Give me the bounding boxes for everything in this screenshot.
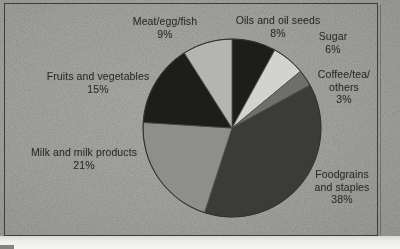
slice-value-fruits-and-vegetables: 15% <box>28 83 168 96</box>
slice-label-foodgrains-and-staples-line2: and staples <box>300 181 384 194</box>
chart-page: Meat/egg/fish 9% Oils and oil seeds 8% S… <box>0 0 400 249</box>
slice-label-meat-egg-fish: Meat/egg/fish 9% <box>104 15 226 40</box>
pie-slice-group <box>143 39 321 217</box>
slice-value-foodgrains-and-staples: 38% <box>300 193 384 206</box>
slice-label-sugar-text: Sugar <box>319 30 348 42</box>
slice-label-fruits-and-vegetables: Fruits and vegetables 15% <box>28 70 168 95</box>
slice-label-coffee-tea-others-line2: others <box>304 81 384 94</box>
slice-label-milk-and-milk-products-text: Milk and milk products <box>31 146 137 158</box>
slice-value-meat-egg-fish: 9% <box>104 28 226 41</box>
slice-label-milk-and-milk-products: Milk and milk products 21% <box>16 146 152 171</box>
slice-label-coffee-tea-others: Coffee/tea/ others 3% <box>304 68 384 106</box>
slice-label-fruits-and-vegetables-text: Fruits and vegetables <box>47 70 150 82</box>
slice-label-foodgrains-and-staples: Foodgrains and staples 38% <box>300 168 384 206</box>
slice-value-coffee-tea-others: 3% <box>304 93 384 106</box>
scan-bottom-strip <box>0 236 400 249</box>
scan-bottom-tick-mark <box>0 245 14 249</box>
slice-label-coffee-tea-others-line1: Coffee/tea/ <box>318 68 370 80</box>
slice-label-foodgrains-and-staples-line1: Foodgrains <box>315 168 369 180</box>
slice-value-milk-and-milk-products: 21% <box>16 159 152 172</box>
slice-label-oils-and-oil-seeds-text: Oils and oil seeds <box>236 14 321 26</box>
slice-value-sugar: 6% <box>300 43 366 56</box>
slice-label-sugar: Sugar 6% <box>300 30 366 55</box>
slice-label-meat-egg-fish-text: Meat/egg/fish <box>133 15 197 27</box>
